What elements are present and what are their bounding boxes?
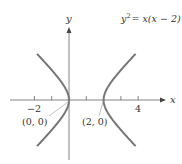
x-axis-arrow-icon bbox=[160, 98, 166, 103]
tick-label-neg2: −2 bbox=[27, 103, 41, 114]
y-axis-arrow-icon bbox=[67, 27, 72, 33]
vertex-point-label: (2, 0) bbox=[82, 116, 108, 127]
equation-label: y2= x(x − 2) bbox=[120, 12, 181, 24]
equation-exponent: 2 bbox=[126, 12, 130, 20]
equation-rest: = x(x − 2) bbox=[132, 13, 181, 24]
origin-point-label: (0, 0) bbox=[22, 116, 48, 127]
hyperbola-plot: x y −2 4 (0, 0) (2, 0) y2= x(x − 2) bbox=[0, 0, 182, 164]
x-axis-label: x bbox=[170, 94, 176, 105]
y-axis-label: y bbox=[65, 13, 72, 24]
x-ticks bbox=[34, 96, 138, 100]
tick-label-4: 4 bbox=[135, 103, 141, 114]
vertex-leader-line bbox=[99, 102, 103, 116]
